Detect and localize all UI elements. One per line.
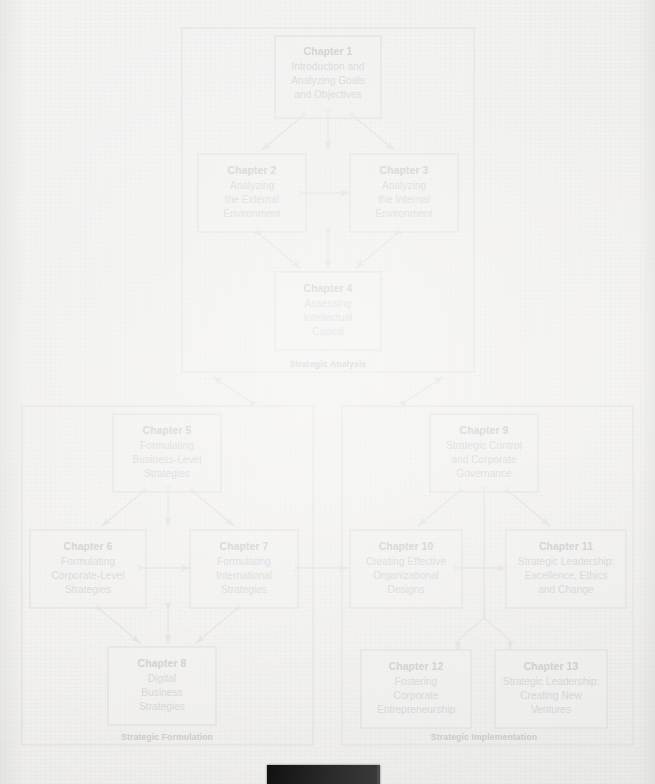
box-chapter-3: Chapter 3 Analyzing the Internal Environ…	[350, 154, 458, 232]
chapter-7-line-3: Strategies	[221, 584, 267, 595]
chapter-3-line-2: the Internal	[379, 194, 430, 205]
box-chapter-10: Chapter 10 Creating Effective Organizati…	[350, 530, 462, 608]
chapter-5-line-1: Formulating	[140, 440, 194, 451]
chapter-2-line-2: the External	[225, 194, 279, 205]
chapter-1-line-3: and Objectives	[294, 89, 361, 100]
box-chapter-4: Chapter 4 Assessing Intellectual Capital	[275, 272, 381, 350]
panel-label-strategic-analysis: Strategic Analysis	[290, 359, 367, 369]
chapter-1-title: Chapter 1	[304, 46, 353, 57]
chapter-10-line-2: Organizational	[373, 570, 439, 581]
chapter-9-line-1: Strategic Control	[446, 440, 522, 451]
box-chapter-13: Chapter 13 Strategic Leadership: Creatin…	[495, 650, 607, 728]
chapter-9-line-3: Governance	[456, 468, 512, 479]
box-chapter-12: Chapter 12 Fostering Corporate Entrepren…	[361, 650, 471, 728]
page-edge-shadow-bar	[267, 765, 380, 784]
chapter-1-line-2: Analyzing Goals	[291, 75, 365, 86]
chapter-5-line-2: Business-Level	[132, 454, 201, 465]
chapter-12-line-2: Corporate	[393, 690, 439, 701]
panel-label-strategic-formulation: Strategic Formulation	[121, 732, 213, 742]
chapter-11-line-1: Strategic Leadership:	[518, 556, 614, 567]
chapter-8-line-2: Business	[141, 687, 182, 698]
chapter-3-line-1: Analyzing	[382, 180, 427, 191]
chapter-13-line-3: Ventures	[531, 704, 571, 715]
chapter-2-line-1: Analyzing	[230, 180, 275, 191]
box-chapter-1: Chapter 1 Introduction and Analyzing Goa…	[275, 36, 381, 118]
chapter-13-line-1: Strategic Leadership:	[503, 676, 599, 687]
chapter-8-title: Chapter 8	[138, 658, 187, 669]
chapter-9-title: Chapter 9	[460, 425, 509, 436]
box-chapter-2: Chapter 2 Analyzing the External Environ…	[198, 154, 306, 232]
chapter-8-line-3: Strategies	[139, 701, 185, 712]
box-chapter-8: Chapter 8 Digital Business Strategies	[108, 647, 216, 725]
chapter-6-line-1: Formulating	[61, 556, 115, 567]
chapter-4-line-1: Assessing	[305, 298, 352, 309]
chapter-12-title: Chapter 12	[389, 661, 444, 672]
chapter-10-title: Chapter 10	[379, 541, 434, 552]
chapter-4-line-3: Capital	[312, 326, 344, 337]
chapter-10-line-1: Creating Effective	[366, 556, 447, 567]
page-edge-highlight	[377, 765, 380, 784]
box-chapter-9: Chapter 9 Strategic Control and Corporat…	[430, 414, 538, 492]
chapter-2-line-3: Environment	[223, 208, 280, 219]
strategic-management-framework-diagram: Chapter 1 Introduction and Analyzing Goa…	[0, 0, 655, 784]
chapter-7-line-1: Formulating	[217, 556, 271, 567]
box-chapter-5: Chapter 5 Formulating Business-Level Str…	[113, 414, 221, 492]
panel-label-strategic-implementation: Strategic Implementation	[431, 732, 537, 742]
box-chapter-11: Chapter 11 Strategic Leadership: Excelle…	[506, 530, 626, 608]
chapter-2-title: Chapter 2	[228, 165, 277, 176]
chapter-7-line-2: International	[216, 570, 272, 581]
chapter-3-line-3: Environment	[375, 208, 432, 219]
box-chapter-6: Chapter 6 Formulating Corporate-Level St…	[30, 530, 146, 608]
chapter-5-line-3: Strategies	[144, 468, 190, 479]
chapter-13-title: Chapter 13	[524, 661, 579, 672]
chapter-11-line-2: Excellence, Ethics	[525, 570, 608, 581]
chapter-12-line-1: Fostering	[395, 676, 438, 687]
chapter-6-line-2: Corporate-Level	[51, 570, 124, 581]
chapter-9-line-2: and Corporate	[451, 454, 516, 465]
chapter-6-line-3: Strategies	[65, 584, 111, 595]
chapter-5-title: Chapter 5	[143, 425, 192, 436]
chapter-4-line-2: Intellectual	[304, 312, 353, 323]
chapter-6-title: Chapter 6	[64, 541, 113, 552]
chapter-7-title: Chapter 7	[220, 541, 269, 552]
chapter-8-line-1: Digital	[148, 673, 176, 684]
chapter-12-line-3: Entrepreneurship	[377, 704, 455, 715]
chapter-4-title: Chapter 4	[304, 283, 353, 294]
box-chapter-7: Chapter 7 Formulating International Stra…	[190, 530, 298, 608]
chapter-11-title: Chapter 11	[539, 541, 593, 552]
chapter-3-title: Chapter 3	[380, 165, 429, 176]
chapter-11-line-3: and Change	[538, 584, 594, 595]
chapter-10-line-3: Designs	[388, 584, 425, 595]
chapter-1-line-1: Introduction and	[291, 61, 364, 72]
chapter-13-line-2: Creating New	[520, 690, 582, 701]
